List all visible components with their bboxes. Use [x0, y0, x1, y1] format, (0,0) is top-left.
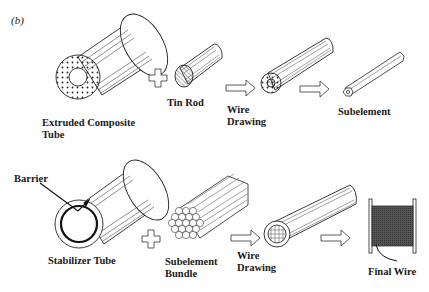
label-extruded-composite-tube-line2: Tube: [42, 129, 64, 141]
panel-label: (b): [11, 14, 24, 26]
label-wire-drawing-2-line2: Drawing: [237, 262, 276, 274]
arrow-right-icon: [226, 80, 255, 96]
subelement-bundle-icon: [168, 174, 248, 239]
arrow-right-icon: [321, 230, 350, 246]
label-subelement-bundle-line2: Bundle: [165, 268, 197, 280]
stabilizer-tube-icon: [55, 152, 178, 248]
label-wire-drawing-1-line1: Wire: [227, 104, 249, 116]
arrow-right-icon: [300, 81, 329, 97]
arrow-right-icon: [231, 230, 260, 246]
label-stabilizer-tube: Stabilizer Tube: [48, 255, 116, 267]
plus-icon: [142, 230, 160, 248]
tin-rod-icon: [175, 44, 222, 87]
label-subelement-bundle-line1: Subelement: [165, 256, 218, 268]
diagram: (b) Extruded Composite Tube Tin Rod Wire…: [0, 0, 429, 292]
label-subelement: Subelement: [338, 106, 391, 118]
diagram-graphics: [0, 0, 429, 292]
label-barrier: Barrier: [14, 173, 48, 185]
label-final-wire: Final Wire: [368, 266, 416, 278]
label-wire-drawing-1-line2: Drawing: [227, 116, 266, 128]
wire-spool-icon: [369, 199, 416, 261]
label-extruded-composite-tube-line1: Extruded Composite: [42, 117, 135, 129]
label-wire-drawing-2-line1: Wire: [237, 250, 259, 262]
label-tin-rod: Tin Rod: [167, 97, 204, 109]
subelement-icon: [343, 52, 404, 96]
